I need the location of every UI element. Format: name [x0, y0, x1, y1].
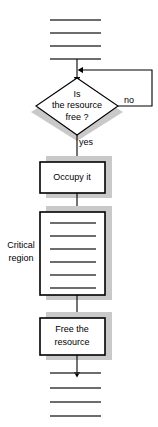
- critical-region-label-line2: region: [8, 253, 33, 263]
- critical-region-label-line1: Critical: [7, 240, 35, 250]
- free-the-resource-label-line2: resource: [54, 337, 89, 347]
- decision-node-group: Is the resource free ?: [31, 78, 123, 141]
- flowchart-diagram: Is the resource free ? no yes Occupy it: [0, 0, 158, 427]
- decision-label-line2: the resource: [52, 100, 102, 110]
- preceding-statements-block: [50, 20, 101, 59]
- critical-region-node-group: [40, 206, 112, 300]
- occupy-it-label: Occupy it: [53, 172, 91, 182]
- following-statements-block: [50, 373, 101, 416]
- edge-label-no: no: [124, 95, 134, 105]
- free-the-resource-label-line1: Free the: [55, 324, 89, 334]
- critical-region-side-label: Critical region: [7, 240, 35, 263]
- decision-label-line1: Is: [73, 89, 81, 99]
- occupy-it-node-group: Occupy it: [40, 156, 112, 198]
- decision-label-line3: free ?: [65, 112, 88, 122]
- edge-label-yes: yes: [79, 137, 94, 147]
- free-the-resource-node-group: Free the resource: [40, 312, 112, 360]
- critical-region-box: [40, 212, 105, 295]
- flowchart-canvas: Is the resource free ? no yes Occupy it: [0, 0, 158, 427]
